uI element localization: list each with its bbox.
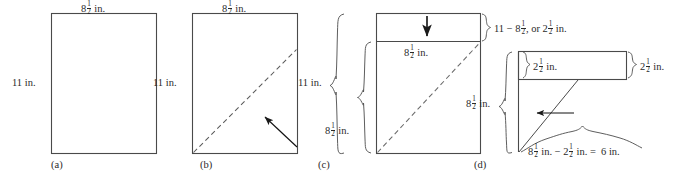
fraction-one-half: 12: [472, 96, 477, 112]
fraction-one-half: 12: [410, 45, 415, 61]
panel-c-square-side-label: 812 in.: [325, 123, 349, 139]
panel-b-shape: [193, 14, 298, 154]
fraction-one-half: 12: [646, 59, 651, 75]
fraction-one-half: 12: [87, 1, 92, 17]
panel-a-shape: [52, 14, 157, 154]
fraction-one-half: 12: [534, 144, 539, 160]
panel-c-shape: [330, 14, 491, 154]
panel-d-strip-height-right-label: 212 in.: [640, 59, 664, 75]
diagonal-line-d: [519, 80, 578, 152]
panel-c-strip-width-label: 812 in.: [404, 45, 428, 61]
fraction-one-half: 12: [331, 123, 336, 139]
panel-c-total-height-label: 11 in.: [298, 78, 322, 89]
brace-strip-height-right-d: [628, 52, 637, 78]
panel-d-square-side-label: 812 in.: [466, 96, 490, 112]
remaining-length-equation: 812 in. − 212 in. = 6 in.: [528, 144, 620, 160]
panel-d-shape: [499, 52, 642, 154]
fraction-one-half: 12: [569, 144, 574, 160]
panel-c-id: (c): [318, 159, 330, 170]
fraction-one-half: 12: [539, 59, 544, 75]
panel-d-id: (d): [474, 159, 486, 170]
panel-a-width-label: 812 in.: [81, 1, 105, 17]
panel-a-height-label: 11 in.: [12, 78, 36, 89]
brace-strip-height-c: [482, 14, 491, 41]
panel-a-id: (a): [51, 159, 63, 170]
brace-8half-in-c: [358, 42, 372, 153]
paper-rectangle-a: [52, 14, 157, 154]
figure-canvas: 812 in. 11 in. (a) 812 in. 11 in. (b) 11…: [0, 0, 680, 177]
strip-height-equation: 11 − 812, or 212 in.: [494, 21, 567, 37]
panel-d-strip-height-left-label: 212 in.: [533, 59, 557, 75]
panel-b-id: (b): [200, 159, 212, 170]
folded-sheet-outline-c: [377, 14, 481, 154]
brace-8half-in-d: [499, 52, 512, 153]
fraction-one-half: 12: [228, 1, 233, 17]
fraction-one-half: 12: [521, 21, 526, 37]
fraction-one-half: 12: [548, 21, 553, 37]
panel-b-height-label: 11 in.: [153, 78, 177, 89]
panel-b-width-label: 812 in.: [222, 1, 246, 17]
